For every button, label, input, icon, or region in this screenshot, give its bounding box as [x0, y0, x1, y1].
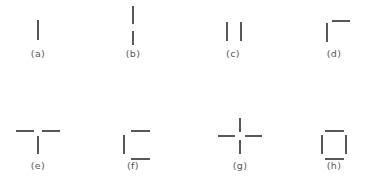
- figure-a-vertical-stroke: [37, 20, 39, 40]
- figure-label-g: (g): [233, 160, 248, 171]
- figure-e-left-horizontal-stroke: [16, 130, 34, 132]
- figure-label-f: (f): [127, 160, 139, 171]
- figure-c-left-vertical-stroke: [226, 22, 228, 41]
- figure-c-right-vertical-stroke: [240, 22, 242, 41]
- figure-b-lower-vertical-stroke: [132, 31, 134, 45]
- figure-h-left-vertical-stroke: [321, 135, 323, 154]
- figure-d-top-horizontal-stroke: [332, 20, 350, 22]
- figure-f-top-horizontal-stroke: [131, 130, 150, 132]
- figure-g-bottom-vertical-stroke: [239, 140, 241, 154]
- figure-d-vertical-stroke: [326, 23, 328, 42]
- figure-label-c: (c): [226, 48, 240, 59]
- figure-f-left-vertical-stroke: [123, 135, 125, 154]
- figure-b-upper-vertical-stroke: [132, 6, 134, 24]
- figure-g-top-vertical-stroke: [239, 118, 241, 132]
- figure-label-b: (b): [126, 48, 141, 59]
- figure-e-vertical-stroke: [37, 136, 39, 154]
- figure-g-left-horizontal-stroke: [218, 135, 235, 137]
- figure-e-right-horizontal-stroke: [42, 130, 60, 132]
- figure-label-h: (h): [327, 160, 342, 171]
- figure-sheet: (a)(b)(c)(d)(e)(f)(g)(h): [0, 0, 366, 185]
- figure-label-e: (e): [31, 160, 45, 171]
- figure-label-a: (a): [31, 48, 45, 59]
- figure-h-right-vertical-stroke: [345, 135, 347, 154]
- figure-label-d: (d): [327, 48, 342, 59]
- figure-g-right-horizontal-stroke: [245, 135, 262, 137]
- figure-h-top-horizontal-stroke: [325, 130, 344, 132]
